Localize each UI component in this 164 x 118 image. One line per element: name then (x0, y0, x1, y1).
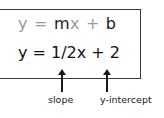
slope-arrow-icon (61, 72, 63, 92)
slope-label: slope (48, 94, 73, 105)
general-form-equation: y=mx+b (18, 15, 117, 33)
intercept-arrow-icon (106, 72, 108, 92)
general-m-slope: m (54, 14, 70, 33)
general-equals: = (34, 14, 48, 33)
general-plus: + (86, 14, 100, 33)
general-y: y (18, 14, 28, 33)
specific-equation: y = 1/2x + 2 (18, 44, 120, 62)
general-x: x (70, 14, 80, 33)
general-b-intercept: b (106, 14, 117, 33)
intercept-label: y-intercept (100, 94, 152, 105)
